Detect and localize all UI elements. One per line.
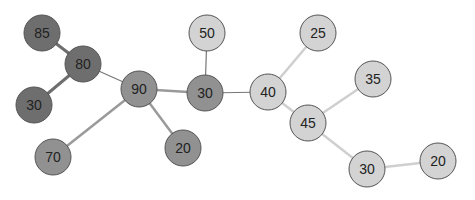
graph-node: 30 xyxy=(187,75,223,111)
graph-node: 70 xyxy=(35,139,71,175)
graph-node: 85 xyxy=(24,15,60,51)
graph-node: 90 xyxy=(121,71,157,107)
node-label: 25 xyxy=(310,25,326,41)
node-label: 30 xyxy=(359,161,375,177)
node-label: 80 xyxy=(75,56,91,72)
graph-node: 50 xyxy=(189,15,225,51)
graph-node: 80 xyxy=(65,46,101,82)
graph-node: 45 xyxy=(290,105,326,141)
node-label: 35 xyxy=(365,71,381,87)
graph-node: 25 xyxy=(300,15,336,51)
graph-node: 20 xyxy=(165,130,201,166)
graph-node: 30 xyxy=(349,151,385,187)
network-graph: 8580309070205030402535453020 xyxy=(0,0,475,200)
node-label: 50 xyxy=(199,25,215,41)
node-label: 40 xyxy=(260,84,276,100)
node-label: 45 xyxy=(300,115,316,131)
node-label: 30 xyxy=(197,85,213,101)
node-label: 20 xyxy=(175,140,191,156)
graph-node: 35 xyxy=(355,61,391,97)
graph-node: 30 xyxy=(16,87,52,123)
node-label: 70 xyxy=(45,149,61,165)
node-layer: 8580309070205030402535453020 xyxy=(16,15,456,187)
node-label: 20 xyxy=(430,153,446,169)
node-label: 90 xyxy=(131,81,147,97)
node-label: 30 xyxy=(26,97,42,113)
node-label: 85 xyxy=(34,25,50,41)
graph-node: 20 xyxy=(420,143,456,179)
graph-node: 40 xyxy=(250,74,286,110)
